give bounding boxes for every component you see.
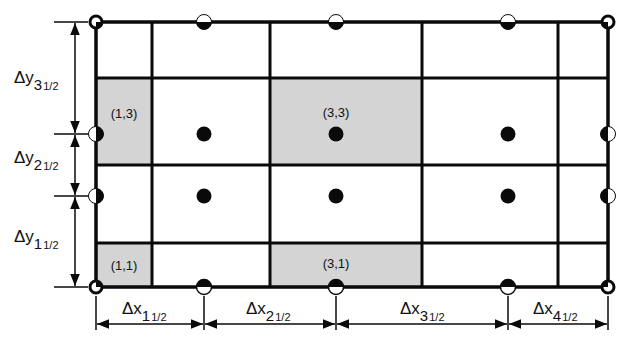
grid-diagram-svg: (1,3) (3,3) (1,1) (3,1) [0, 0, 625, 346]
cell-1-3 [96, 78, 152, 165]
half-filled-node-icon [601, 127, 616, 142]
dx-label-2: Δx21/2 [246, 299, 291, 324]
dy-dimensions [54, 22, 88, 287]
dx-dimensions [96, 296, 608, 330]
corner-node-icon [602, 281, 614, 293]
corner-node-icon [90, 281, 102, 293]
half-filled-node-icon [501, 280, 516, 295]
half-filled-node-icon [89, 189, 104, 204]
half-filled-node-icon [89, 127, 104, 142]
half-filled-node-icon [197, 15, 212, 30]
corner-node-icon [602, 16, 614, 28]
half-filled-node-icon [197, 280, 212, 295]
interior-node-icon [501, 127, 516, 142]
dx-label-4: Δx41/2 [533, 299, 578, 324]
cell-3-3 [270, 78, 422, 165]
cell-label-3-1: (3,1) [323, 256, 350, 271]
cell-label-1-3: (1,3) [111, 106, 138, 121]
cell-label-3-3: (3,3) [323, 105, 350, 120]
interior-node-icon [501, 189, 516, 204]
interior-node-icon [329, 127, 344, 142]
corner-node-icon [90, 16, 102, 28]
dx-label-3: Δx31/2 [400, 299, 445, 324]
half-filled-node-icon [601, 189, 616, 204]
dx-labels: Δx11/2 Δx21/2 Δx31/2 Δx41/2 [122, 299, 578, 324]
dx-label-1: Δx11/2 [122, 299, 167, 324]
dy-labels: Δy31/2 Δy21/2 Δy11/2 [14, 68, 59, 252]
interior-node-icon [197, 127, 212, 142]
half-filled-node-icon [329, 280, 344, 295]
shaded-cells [96, 78, 422, 287]
interior-node-icon [329, 189, 344, 204]
grid-diagram: (1,3) (3,3) (1,1) (3,1) [0, 0, 625, 346]
half-filled-node-icon [501, 15, 516, 30]
dy-label-2: Δy21/2 [14, 148, 59, 173]
interior-node-icon [197, 189, 212, 204]
dy-label-3: Δy31/2 [14, 68, 59, 93]
half-filled-node-icon [329, 15, 344, 30]
dy-label-1: Δy11/2 [14, 227, 59, 252]
cell-label-1-1: (1,1) [111, 258, 138, 273]
